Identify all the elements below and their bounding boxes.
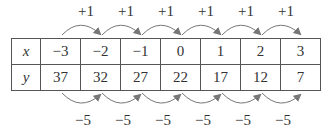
- table-cell: 12: [241, 65, 281, 91]
- bottom-change-label: −5: [275, 112, 291, 129]
- function-table-figure: +1 +1 +1 +1 +1 +1 x −3 −2 −1 0 1 2 3 y 3…: [0, 0, 332, 134]
- top-arc-arrows: [62, 25, 300, 35]
- bottom-arc-arrows: [62, 93, 300, 103]
- table-cell: 3: [281, 39, 321, 65]
- table-cell: 27: [121, 65, 161, 91]
- top-change-label: +1: [278, 3, 294, 20]
- table-cell: 0: [161, 39, 201, 65]
- table-cell: 1: [201, 39, 241, 65]
- table-cell: 7: [281, 65, 321, 91]
- bottom-change-label: −5: [235, 112, 251, 129]
- table-cell: −3: [41, 39, 81, 65]
- table-cell: 17: [201, 65, 241, 91]
- table-cell: −2: [81, 39, 121, 65]
- xy-table: x −3 −2 −1 0 1 2 3 y 37 32 27 22 17 12 7: [11, 38, 321, 91]
- top-change-label: +1: [238, 3, 254, 20]
- bottom-change-label: −5: [155, 112, 171, 129]
- row-header: y: [12, 65, 41, 91]
- top-change-label: +1: [118, 3, 134, 20]
- table-cell: 2: [241, 39, 281, 65]
- table-cell: −1: [121, 39, 161, 65]
- row-header: x: [12, 39, 41, 65]
- table-row-x: x −3 −2 −1 0 1 2 3: [12, 39, 321, 65]
- bottom-change-label: −5: [75, 112, 91, 129]
- table-cell: 32: [81, 65, 121, 91]
- top-change-label: +1: [158, 3, 174, 20]
- top-change-label: +1: [78, 3, 94, 20]
- bottom-change-label: −5: [195, 112, 211, 129]
- table-row-y: y 37 32 27 22 17 12 7: [12, 65, 321, 91]
- table-cell: 37: [41, 65, 81, 91]
- top-change-label: +1: [198, 3, 214, 20]
- bottom-change-label: −5: [115, 112, 131, 129]
- table-cell: 22: [161, 65, 201, 91]
